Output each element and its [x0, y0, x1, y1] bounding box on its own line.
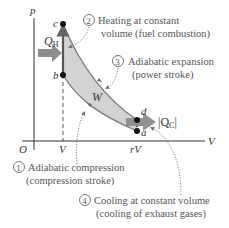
- work-region: [63, 24, 137, 131]
- v-tick-label: V: [59, 143, 67, 155]
- step-1-number: 1: [16, 163, 21, 173]
- step-1-pointer: [77, 113, 84, 164]
- rv-tick-label: rV: [130, 143, 142, 155]
- step-4-line2: (cooling of exhaust gases): [96, 208, 206, 220]
- point-a: [134, 128, 140, 134]
- v-axis-label: V: [208, 135, 216, 147]
- step-2-number: 2: [86, 16, 91, 26]
- point-d: [134, 117, 140, 123]
- heat-in-label: QH: [44, 34, 59, 49]
- point-d-label: d: [141, 105, 147, 117]
- origin-label: O: [19, 143, 27, 155]
- step-2-line2: volume (fuel combustion): [101, 28, 211, 40]
- otto-cycle-diagram: p V O V rV c b d a W QH |QC| 2 Heating a…: [0, 0, 229, 228]
- step-3-line2: (power stroke): [132, 69, 194, 81]
- step-4-number: 4: [82, 196, 87, 206]
- point-b: [60, 72, 66, 78]
- point-c: [60, 21, 66, 27]
- step-3-number: 3: [115, 57, 120, 67]
- step-1-line2: (compression stroke): [26, 175, 115, 187]
- step-1-line1: Adiabatic compression: [28, 162, 125, 173]
- point-b-label: b: [53, 69, 59, 81]
- point-a-label: a: [141, 126, 147, 138]
- step-3-line1: Adiabatic expansion: [128, 56, 215, 67]
- expansion-direction-icon: [97, 78, 102, 82]
- step-4-pointer: [152, 128, 181, 195]
- heat-out-label: |QC|: [158, 115, 177, 130]
- step-2-line1: Heating at constant: [98, 15, 179, 26]
- step-4-line1: Cooling at constant volume: [94, 195, 210, 206]
- p-axis-label: p: [29, 4, 36, 16]
- point-c-label: c: [53, 17, 58, 29]
- work-label: W: [92, 90, 103, 104]
- step-3-pointer: [107, 68, 118, 88]
